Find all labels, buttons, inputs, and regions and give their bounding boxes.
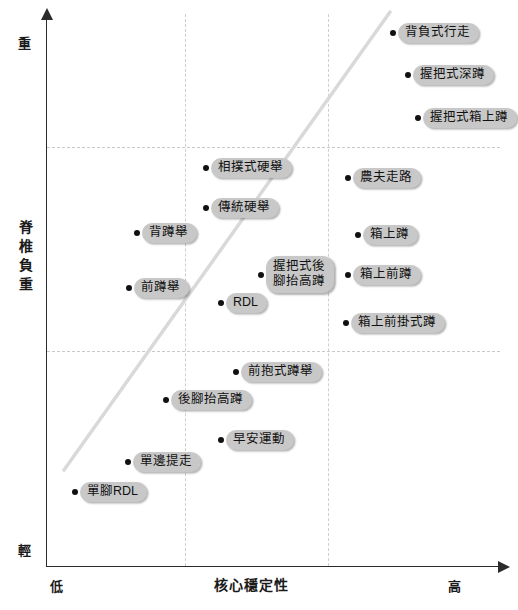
data-point-label: 傳統硬舉: [211, 198, 279, 218]
horizontal-gridline: [47, 351, 500, 352]
data-point[interactable]: 單邊提走: [125, 452, 201, 472]
y-axis-line: [46, 18, 47, 567]
y-axis-arrow-icon: [41, 8, 53, 20]
x-axis-line: [46, 566, 501, 567]
y-axis-high-label: 重: [18, 33, 31, 52]
data-point-marker-icon: [134, 230, 140, 236]
quadrant-scatter-chart: 重 輕 脊椎負重 低 高 核心穩定性 背負式行走握把式深蹲握把式箱上蹲相撲式硬舉…: [0, 0, 518, 610]
data-point[interactable]: 單腳RDL: [72, 482, 147, 502]
data-point-marker-icon: [72, 489, 78, 495]
x-axis-arrow-icon: [498, 561, 510, 573]
data-point-marker-icon: [415, 115, 421, 121]
data-point-label: RDL: [226, 293, 267, 313]
data-point-label: 背負式行走: [398, 23, 479, 43]
data-point-label: 背蹲舉: [142, 223, 197, 243]
x-axis-high-label: 高: [448, 576, 461, 595]
data-point-label: 握把式深蹲: [413, 65, 494, 85]
data-point[interactable]: 箱上蹲: [355, 225, 418, 245]
data-point-marker-icon: [203, 165, 209, 171]
data-point[interactable]: 背蹲舉: [134, 223, 197, 243]
horizontal-gridline: [47, 147, 500, 148]
y-axis-low-label: 輕: [18, 540, 31, 559]
data-point-marker-icon: [218, 300, 224, 306]
data-point-label: 單腳RDL: [80, 482, 147, 502]
data-point[interactable]: 前抱式蹲舉: [233, 362, 322, 382]
data-point-marker-icon: [345, 175, 351, 181]
data-point-marker-icon: [218, 437, 224, 443]
data-point[interactable]: 相撲式硬舉: [203, 158, 292, 178]
data-point-label: 箱上前蹲: [353, 265, 421, 285]
data-point[interactable]: 握把式箱上蹲: [415, 108, 517, 128]
data-point[interactable]: 背負式行走: [390, 23, 479, 43]
data-point[interactable]: 握把式深蹲: [405, 65, 494, 85]
data-point[interactable]: 箱上前掛式蹲: [343, 313, 445, 333]
data-point-marker-icon: [233, 369, 239, 375]
data-point-label: 農夫走路: [353, 168, 421, 188]
data-point[interactable]: RDL: [218, 293, 267, 313]
data-point[interactable]: 前蹲舉: [126, 278, 189, 298]
data-point-marker-icon: [355, 232, 361, 238]
data-point-label: 早安運動: [226, 430, 294, 450]
data-point[interactable]: 傳統硬舉: [203, 198, 279, 218]
data-point-marker-icon: [343, 320, 349, 326]
data-point-label: 握把式箱上蹲: [423, 108, 517, 128]
data-point[interactable]: 農夫走路: [345, 168, 421, 188]
data-point-label: 相撲式硬舉: [211, 158, 292, 178]
data-point-marker-icon: [258, 272, 264, 278]
data-point-marker-icon: [345, 272, 351, 278]
data-point-label: 後腳抬高蹲: [171, 390, 252, 410]
data-point-marker-icon: [126, 285, 132, 291]
y-axis-title: 脊椎負重: [17, 218, 35, 294]
data-point[interactable]: 箱上前蹲: [345, 265, 421, 285]
data-point-label: 單邊提走: [133, 452, 201, 472]
data-point-label: 握把式後 腳抬高蹲: [266, 256, 334, 293]
data-point-marker-icon: [405, 72, 411, 78]
data-point-marker-icon: [203, 205, 209, 211]
data-point-label: 箱上蹲: [363, 225, 418, 245]
data-point-marker-icon: [125, 459, 131, 465]
data-point-label: 前蹲舉: [134, 278, 189, 298]
data-point[interactable]: 握把式後 腳抬高蹲: [258, 256, 334, 293]
data-point[interactable]: 早安運動: [218, 430, 294, 450]
data-point[interactable]: 後腳抬高蹲: [163, 390, 252, 410]
data-point-label: 箱上前掛式蹲: [351, 313, 445, 333]
x-axis-title: 核心穩定性: [214, 574, 289, 594]
x-axis-low-label: 低: [50, 576, 63, 595]
data-point-marker-icon: [163, 397, 169, 403]
data-point-marker-icon: [390, 30, 396, 36]
data-point-label: 前抱式蹲舉: [241, 362, 322, 382]
